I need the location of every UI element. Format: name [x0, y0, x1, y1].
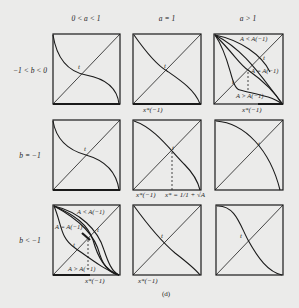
point-label: t [240, 232, 242, 240]
curve-label: A < A(−1) [77, 208, 104, 215]
figure-grid: 0 < a < 1 a = 1 a > 1 −1 < b < 0 b = −1 … [0, 0, 299, 308]
point-label: t [263, 54, 265, 62]
point-label: t [78, 63, 80, 71]
point-label: t [73, 241, 75, 249]
point-label: t [164, 62, 166, 70]
point-label: t [97, 226, 99, 234]
figure-caption: (d) [162, 290, 170, 298]
axis-label: x*(−1) [136, 191, 156, 199]
panel-r1c2 [133, 34, 201, 104]
panel-r1c1 [53, 34, 120, 104]
curve-label: A < A(−1) [240, 35, 267, 42]
axis-label: x* = 1/1 + √A [165, 191, 205, 199]
panel-r2c2 [133, 120, 201, 190]
panel-r2c3 [215, 120, 283, 190]
panel-r3c2 [133, 205, 201, 275]
axis-label: x*(−1) [138, 277, 158, 285]
axis-label: x*(−1) [143, 106, 163, 114]
panel-r3c3 [216, 205, 283, 275]
point-label: t [161, 232, 163, 240]
point-label: t [258, 140, 260, 148]
curve-label: A = A(−1) [251, 67, 278, 74]
point-label: t [172, 144, 174, 152]
point-label: t [84, 145, 86, 153]
phase-diagrams [0, 0, 299, 308]
panel-r2c1 [53, 120, 120, 190]
axis-label: x*(−1) [242, 106, 262, 114]
axis-label: x*(−1) [85, 277, 105, 285]
point-label: t [232, 78, 234, 86]
curve-label: A = A(−1) [55, 223, 82, 230]
curve-label: A > A(−1) [68, 265, 95, 272]
curve-label: A > A(−1) [236, 92, 263, 99]
